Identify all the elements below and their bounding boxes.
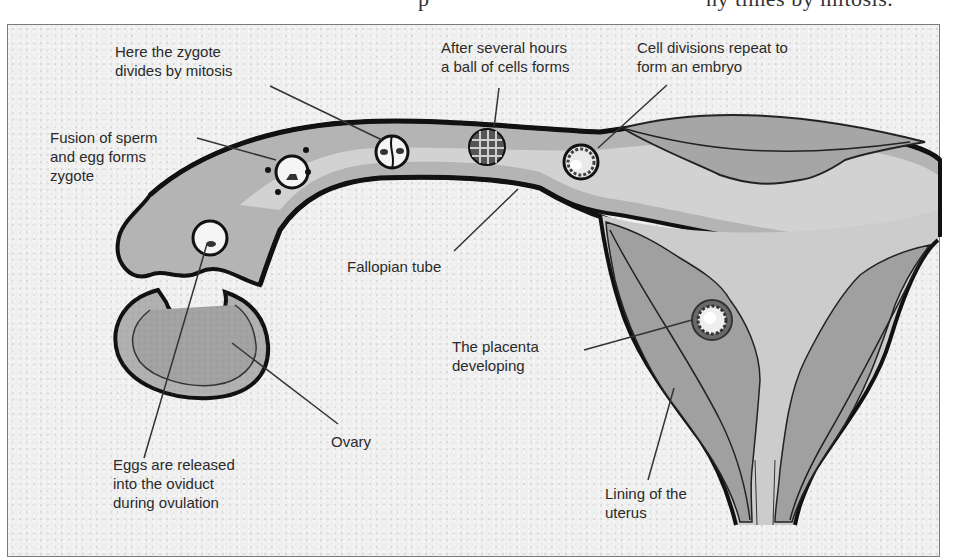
label-uterus-lining: Lining of the uterus — [605, 484, 687, 522]
label-ball-of-cells: After several hours a ball of cells form… — [441, 38, 569, 76]
embryo-blastocyst — [564, 145, 598, 179]
uterus — [600, 210, 938, 525]
egg-in-ovary-region — [193, 221, 227, 255]
label-fallopian-tube: Fallopian tube — [347, 257, 441, 276]
implanted-embryo-placenta — [692, 300, 732, 340]
ovary — [110, 285, 280, 405]
ball-of-cells — [469, 129, 505, 165]
label-zygote-mitosis: Here the zygote divides by mitosis — [115, 42, 233, 80]
label-ovary: Ovary — [331, 432, 371, 451]
two-cell-stage — [376, 136, 408, 168]
label-eggs-released: Eggs are released into the oviduct durin… — [113, 455, 235, 512]
label-placenta: The placenta developing — [452, 337, 539, 375]
label-embryo: Cell divisions repeat to form an embryo — [637, 38, 788, 76]
label-fusion-zygote: Fusion of sperm and egg forms zygote — [50, 128, 158, 185]
